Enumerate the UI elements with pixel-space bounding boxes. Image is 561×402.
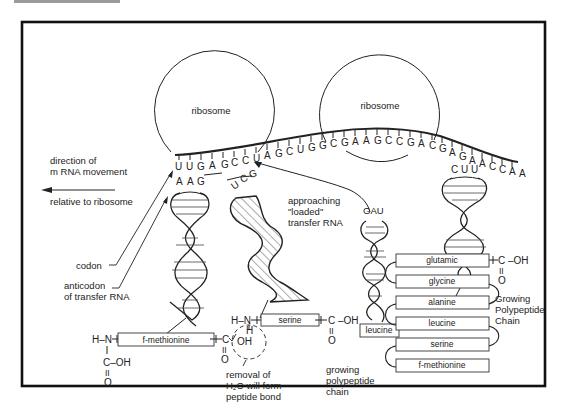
base: A — [418, 138, 425, 149]
direction-text: m RNA movement — [50, 166, 127, 177]
base: G — [319, 140, 327, 151]
growing-cap-label: Chain — [495, 315, 520, 326]
base: A — [363, 135, 370, 146]
anticodon-base: A — [176, 176, 183, 187]
base: A — [479, 158, 486, 169]
approaching-label: "loaded" — [288, 206, 323, 217]
base: U — [186, 161, 193, 172]
base: G — [407, 137, 415, 148]
base: A — [449, 147, 456, 158]
amino-acid-label: f-methionine — [143, 335, 190, 345]
anticodon-base: C — [451, 164, 458, 175]
growing-label: growing — [326, 364, 359, 375]
anticodon-base: G — [248, 167, 259, 180]
base: G — [374, 135, 382, 146]
polypeptide-chain: glutamic glycine alanine leucine serine … — [386, 254, 545, 372]
anticodon-base: C — [238, 172, 249, 185]
carboxyl: C –OH — [328, 315, 359, 326]
chain-residue-label: alanine — [428, 297, 456, 307]
base: G — [275, 148, 283, 159]
anticodon-base: U — [461, 164, 468, 175]
carbon: C — [222, 334, 229, 345]
codon-label: codon — [76, 260, 102, 271]
anticodon-base: G — [197, 176, 205, 187]
anticodon-label: anticodon — [64, 280, 105, 291]
hydrogen: H — [246, 325, 253, 336]
chain-residue-label: glycine — [429, 276, 456, 286]
base: A — [209, 160, 216, 171]
amine-group: H–N — [231, 315, 251, 326]
chain-residue-label: serine — [430, 339, 453, 349]
carboxyl: C–OH — [103, 357, 131, 368]
oxygen: O — [104, 377, 112, 388]
approaching-label: approaching — [288, 195, 340, 206]
anticodon-label: of transfer RNA — [64, 291, 130, 302]
direction-text: direction of — [50, 155, 97, 166]
base: C — [429, 140, 436, 151]
base: G — [221, 159, 229, 170]
base: A — [264, 150, 271, 161]
base: A — [352, 136, 359, 147]
water-removal: OH H removal of H₂O will form peptide bo… — [226, 325, 281, 402]
base: C — [286, 146, 293, 157]
base: G — [341, 137, 349, 148]
ribosome-label: ribosome — [191, 105, 230, 116]
base: C — [330, 138, 337, 149]
arrow-icon — [254, 162, 262, 168]
trna-left: A A G — [166, 176, 209, 334]
base: C — [242, 155, 249, 166]
removal-label: H₂O will form — [226, 380, 281, 391]
ribosome-label: ribosome — [360, 100, 399, 111]
growing-cap-label: Growing — [495, 293, 530, 304]
trna-middle: U C G — [229, 167, 308, 318]
chain-residue-label: f-methionine — [419, 360, 466, 370]
base: C — [499, 164, 506, 175]
base: A — [509, 166, 516, 177]
direction-annotation: direction of m RNA movement relative to … — [41, 155, 133, 207]
chain-residue-label: leucine — [429, 318, 456, 328]
base: G — [197, 161, 205, 172]
base: G — [459, 151, 467, 162]
oxygen: O — [221, 354, 229, 365]
amine-group: H–N — [92, 334, 112, 345]
ribosome-left: ribosome — [155, 51, 275, 152]
base: U — [297, 144, 304, 155]
base: C — [396, 136, 403, 147]
direction-text: relative to ribosome — [50, 196, 133, 207]
hydroxyl: OH — [237, 336, 252, 347]
amino-acid-label: leucine — [366, 325, 393, 335]
base: C — [489, 161, 496, 172]
chain-residue-label: glutamic — [426, 255, 458, 265]
base: U — [175, 161, 182, 172]
amino-acid-label: serine — [278, 315, 301, 325]
oxygen: O — [498, 275, 506, 286]
fmet-residue: H–N f-methionine C II O C–OH II O — [92, 333, 229, 388]
growing-label: chain — [326, 386, 349, 397]
anticodon-text: GAU — [363, 205, 384, 216]
removal-label: removal of — [226, 369, 271, 380]
base: G — [308, 142, 316, 153]
growing-cap-label: Polypeptide — [495, 304, 545, 315]
approaching-label: transfer RNA — [288, 217, 344, 228]
anticodon-base: U — [471, 164, 478, 175]
base: A — [519, 168, 526, 179]
base: C — [231, 157, 238, 168]
oxygen: O — [328, 335, 336, 346]
carboxyl: C –OH — [498, 255, 529, 266]
removal-label: peptide bond — [226, 391, 281, 402]
base: C — [385, 135, 392, 146]
translation-diagram: ribosome ribosome U U G A G C C U A G C … — [0, 0, 561, 402]
anticodon-base: A — [187, 176, 194, 187]
growing-label: polypeptide — [326, 375, 375, 386]
anticodon-base: U — [229, 178, 241, 191]
base: G — [439, 143, 447, 154]
arrow-left-icon — [41, 187, 52, 193]
